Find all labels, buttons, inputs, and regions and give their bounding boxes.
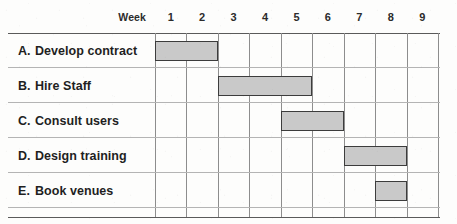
task-name: Book venues — [35, 184, 113, 198]
week-tick-4: 4 — [249, 8, 280, 30]
gantt-bar[interactable] — [281, 111, 344, 131]
task-key: B. — [18, 79, 35, 93]
task-row[interactable]: E.Book venues — [0, 173, 457, 208]
task-name: Consult users — [35, 114, 119, 128]
task-label: C.Consult users — [18, 103, 119, 138]
week-tick-3: 3 — [218, 8, 249, 30]
task-name: Design training — [35, 149, 127, 163]
week-tick-2: 2 — [186, 8, 217, 30]
gantt-bar[interactable] — [344, 146, 407, 166]
week-tick-5: 5 — [281, 8, 312, 30]
gantt-bar[interactable] — [218, 76, 312, 96]
task-row[interactable]: B.Hire Staff — [0, 68, 457, 103]
week-tick-6: 6 — [312, 8, 343, 30]
week-tick-9: 9 — [407, 8, 438, 30]
task-key: C. — [18, 114, 35, 128]
gantt-bar[interactable] — [155, 41, 218, 61]
task-rows: A.Develop contractB.Hire StaffC.Consult … — [0, 33, 457, 217]
task-row[interactable]: A.Develop contract — [0, 33, 457, 68]
task-row[interactable]: C.Consult users — [0, 103, 457, 138]
gantt-chart: Week 123456789 A.Develop contractB.Hire … — [0, 0, 457, 224]
chart-header: Week 123456789 — [0, 8, 457, 30]
week-tick-7: 7 — [344, 8, 375, 30]
task-key: D. — [18, 149, 35, 163]
week-axis-label: Week — [118, 11, 146, 23]
task-name: Hire Staff — [35, 79, 91, 93]
task-label: D.Design training — [18, 138, 127, 173]
week-tick-8: 8 — [375, 8, 406, 30]
task-name: Develop contract — [35, 44, 137, 58]
task-label: B.Hire Staff — [18, 68, 91, 103]
week-tick-1: 1 — [155, 8, 186, 30]
task-key: E. — [18, 184, 35, 198]
task-label: E.Book venues — [18, 173, 113, 208]
chart-bottom-rule — [8, 217, 440, 218]
task-row[interactable]: D.Design training — [0, 138, 457, 173]
task-label: A.Develop contract — [18, 33, 137, 68]
task-key: A. — [18, 44, 35, 58]
week-tick-labels: 123456789 — [155, 8, 438, 30]
row-separator — [8, 207, 440, 208]
gantt-bar[interactable] — [375, 181, 406, 201]
